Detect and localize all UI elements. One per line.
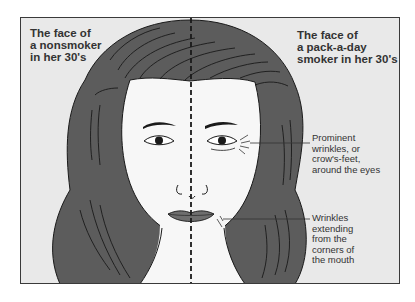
smoker-label: The face of a pack-a-day smoker in her 3… — [297, 29, 398, 65]
mouth-wrinkles-callout: Wrinkles extending from the corners of t… — [312, 213, 354, 266]
eye-wrinkles-callout: Prominent wrinkles, or crow's-feet, arou… — [312, 133, 380, 175]
nonsmoker-label: The face of a nonsmoker in her 30's — [30, 27, 102, 63]
